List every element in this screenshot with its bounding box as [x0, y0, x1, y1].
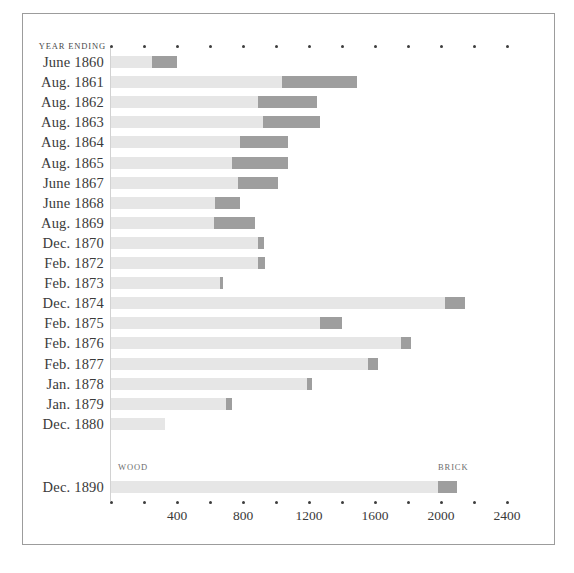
- year-label-1865: Aug. 1865: [0, 156, 104, 170]
- bar-segment-wood: [111, 418, 165, 430]
- year-label-1872: Feb. 1872: [0, 256, 104, 270]
- year-label-1880: Dec. 1880: [0, 417, 104, 431]
- category-label: Jan. 1879: [47, 397, 104, 411]
- year-label-1870: Dec. 1870: [0, 236, 104, 250]
- category-label: Aug. 1863: [41, 115, 104, 129]
- axis-tick-label: 2400: [494, 508, 521, 524]
- year-label-1873: Feb. 1873: [0, 276, 104, 290]
- bar-row: [111, 96, 317, 108]
- category-label: Feb. 1875: [44, 316, 104, 330]
- category-label: Dec. 1890: [43, 480, 104, 494]
- category-label: June 1867: [43, 176, 104, 190]
- bar-row: [111, 297, 465, 309]
- axis-tick-dot: [110, 501, 113, 504]
- bar-segment-brick: [320, 317, 342, 329]
- year-label-1878: Jan. 1878: [0, 377, 104, 391]
- bar-row: [111, 237, 264, 249]
- axis-tick-dot: [242, 45, 245, 48]
- bar-row: [111, 157, 288, 169]
- bar-segment-wood: [111, 116, 263, 128]
- bar-segment-wood: [111, 378, 307, 390]
- category-label: Feb. 1876: [44, 336, 104, 350]
- bar-segment-brick: [401, 337, 411, 349]
- bar-segment-brick: [215, 197, 240, 209]
- bar-row: [111, 56, 177, 68]
- axis-tick-dot: [440, 501, 443, 504]
- bar-row: [111, 217, 255, 229]
- bar-row: [111, 358, 378, 370]
- axis-tick-dot: [473, 45, 476, 48]
- bar-segment-brick: [238, 177, 278, 189]
- year-label-1868: June 1868: [0, 196, 104, 210]
- axis-tick-dot: [308, 501, 311, 504]
- bar-segment-wood: [111, 237, 258, 249]
- bar-row: [111, 418, 165, 430]
- year-label-1874: Dec. 1874: [0, 296, 104, 310]
- year-label-1875: Feb. 1875: [0, 316, 104, 330]
- bar-row: [111, 136, 288, 148]
- category-label: Feb. 1872: [44, 256, 104, 270]
- chart-page: YEAR ENDING June 1860Aug. 1861Aug. 1862A…: [0, 0, 574, 573]
- axis-tick-label: 2000: [428, 508, 455, 524]
- year-label-1876: Feb. 1876: [0, 336, 104, 350]
- axis-tick-label: 1600: [362, 508, 389, 524]
- axis-tick-dot: [308, 45, 311, 48]
- axis-tick-label: 800: [233, 508, 253, 524]
- bar-segment-wood: [111, 337, 401, 349]
- bar-segment-brick: [258, 237, 264, 249]
- bar-segment-wood: [111, 481, 438, 493]
- bar-segment-brick: [445, 297, 465, 309]
- category-label: Aug. 1861: [41, 75, 104, 89]
- category-label: June 1868: [43, 196, 104, 210]
- value-axis-line: [110, 46, 111, 501]
- year-label-1879: Jan. 1879: [0, 397, 104, 411]
- year-label-1860: June 1860: [0, 55, 104, 69]
- category-label: Aug. 1864: [41, 135, 104, 149]
- axis-tick-dot: [275, 45, 278, 48]
- legend-label-wood: WOOD: [118, 462, 148, 472]
- bar-segment-brick: [368, 358, 378, 370]
- bar-row: [111, 177, 278, 189]
- bar-segment-wood: [111, 76, 282, 88]
- axis-tick-dot: [341, 45, 344, 48]
- bar-segment-brick: [240, 136, 288, 148]
- year-label-1862: Aug. 1862: [0, 95, 104, 109]
- bar-row: [111, 257, 265, 269]
- bar-segment-wood: [111, 297, 445, 309]
- year-label-1861: Aug. 1861: [0, 75, 104, 89]
- year-ending-header: YEAR ENDING: [0, 41, 106, 51]
- category-label: Dec. 1880: [43, 417, 104, 431]
- bar-segment-wood: [111, 157, 232, 169]
- axis-tick-dot: [407, 501, 410, 504]
- bar-segment-wood: [111, 277, 220, 289]
- category-label: Dec. 1874: [43, 296, 104, 310]
- bar-segment-brick: [226, 398, 232, 410]
- bar-segment-wood: [111, 96, 258, 108]
- bar-row: [111, 398, 232, 410]
- year-label-1867: June 1867: [0, 176, 104, 190]
- category-label: Aug. 1865: [41, 156, 104, 170]
- category-label: Feb. 1873: [44, 276, 104, 290]
- bar-segment-brick: [152, 56, 177, 68]
- bar-row: [111, 197, 240, 209]
- axis-tick-dot: [209, 501, 212, 504]
- axis-tick-dot: [143, 501, 146, 504]
- bar-segment-wood: [111, 177, 238, 189]
- axis-tick-dot: [341, 501, 344, 504]
- axis-tick-label: 1200: [296, 508, 323, 524]
- bar-row: [111, 116, 320, 128]
- plot-area: YEAR ENDING June 1860Aug. 1861Aug. 1862A…: [0, 0, 574, 573]
- category-label: Feb. 1877: [44, 357, 104, 371]
- axis-tick-dot: [110, 45, 113, 48]
- axis-tick-dot: [407, 45, 410, 48]
- bar-segment-wood: [111, 136, 240, 148]
- axis-tick-dot: [143, 45, 146, 48]
- axis-tick-dot: [176, 501, 179, 504]
- axis-tick-dot: [275, 501, 278, 504]
- bar-segment-brick: [258, 257, 265, 269]
- category-label: Jan. 1878: [47, 377, 104, 391]
- bar-segment-wood: [111, 398, 226, 410]
- category-label: Aug. 1869: [41, 216, 104, 230]
- bar-row: [111, 317, 342, 329]
- bar-segment-wood: [111, 257, 258, 269]
